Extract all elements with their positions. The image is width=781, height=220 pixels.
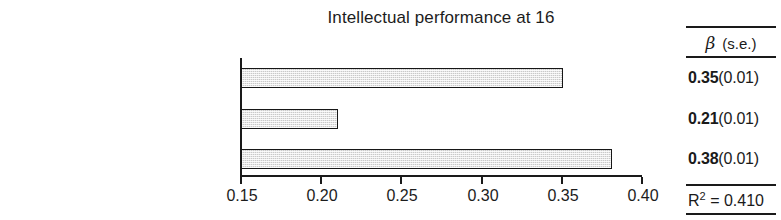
bar-secondary-school xyxy=(241,149,612,169)
bar-observed-family-background xyxy=(241,68,563,88)
se-value-0: (0.01) xyxy=(718,69,759,86)
statistics-table: β(s.e.) 0.35(0.01) 0.21(0.01) 0.38(0.01)… xyxy=(686,0,776,220)
x-tick-label-0: 0.15 xyxy=(212,186,272,205)
table-row: 0.35(0.01) xyxy=(688,68,776,88)
x-tick-2 xyxy=(400,177,402,184)
beta-value-2: 0.38 xyxy=(688,150,718,167)
table-rule-top xyxy=(686,26,776,28)
x-tick-0 xyxy=(240,177,242,184)
x-tick-label-5: 0.40 xyxy=(613,186,673,205)
table-row: 0.38(0.01) xyxy=(688,149,776,169)
x-tick-label-1: 0.20 xyxy=(292,186,352,205)
x-tick-label-4: 0.35 xyxy=(533,186,593,205)
se-value-2: (0.01) xyxy=(718,150,759,167)
r-squared-row: R2 = 0.410 xyxy=(688,191,776,211)
x-tick-4 xyxy=(561,177,563,184)
se-value-1: (0.01) xyxy=(718,110,759,127)
table-rule-header xyxy=(686,56,776,58)
beta-value-1: 0.21 xyxy=(688,110,718,127)
r-squared-exponent: 2 xyxy=(700,190,706,202)
x-tick-label-2: 0.25 xyxy=(372,186,432,205)
beta-value-0: 0.35 xyxy=(688,69,718,86)
x-tick-label-3: 0.30 xyxy=(453,186,513,205)
table-header: β(s.e.) xyxy=(686,34,776,53)
beta-symbol: β xyxy=(706,33,723,53)
bar-primary-school xyxy=(241,109,338,129)
x-tick-5 xyxy=(641,177,643,184)
x-tick-3 xyxy=(481,177,483,184)
x-tick-1 xyxy=(320,177,322,184)
x-axis-line xyxy=(240,175,642,177)
table-rule-bottom xyxy=(686,213,776,215)
plot-area: 0.15 0.20 0.25 0.30 0.35 0.40 Observed f… xyxy=(0,0,660,220)
chart-figure: Intellectual performance at 16 0.15 0.20… xyxy=(0,0,781,220)
table-row: 0.21(0.01) xyxy=(688,109,776,129)
r-squared-value: = 0.410 xyxy=(710,192,764,209)
r-squared-label: R xyxy=(688,192,700,209)
table-rule-footer xyxy=(686,184,776,186)
se-header-label: (s.e.) xyxy=(722,35,756,52)
